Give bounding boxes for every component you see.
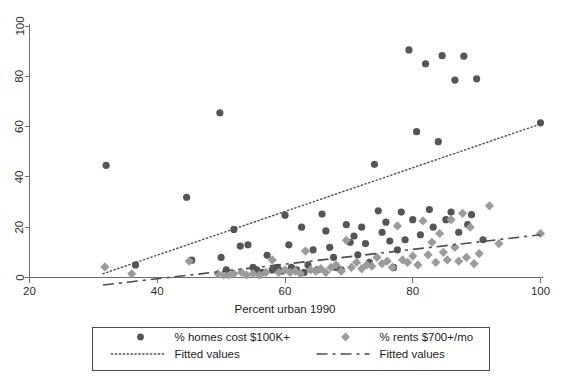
data-point-circle bbox=[394, 246, 401, 253]
legend-item-3-label: Fitted values bbox=[380, 348, 445, 360]
data-point-circle bbox=[281, 212, 288, 219]
plot-svg: 020406080100 20406080100 Percent urban 1… bbox=[0, 0, 565, 389]
data-point-circle bbox=[430, 224, 437, 231]
y-tick-label-40: 40 bbox=[14, 171, 26, 184]
data-point-circle bbox=[354, 251, 361, 258]
y-tick-label-0: 0 bbox=[14, 274, 26, 280]
data-point-circle bbox=[298, 224, 305, 231]
x-tick-label-40: 40 bbox=[151, 285, 164, 297]
data-point-circle bbox=[455, 229, 462, 236]
y-tick-label-100: 100 bbox=[14, 16, 26, 35]
data-point-circle bbox=[183, 194, 190, 201]
data-point-circle bbox=[326, 244, 333, 251]
data-point-circle bbox=[237, 242, 244, 249]
data-point-circle bbox=[398, 209, 405, 216]
data-point-circle bbox=[371, 161, 378, 168]
data-point-circle bbox=[417, 231, 424, 238]
data-point-circle bbox=[362, 240, 369, 247]
data-point-circle bbox=[322, 227, 329, 234]
data-point-circle bbox=[422, 60, 429, 67]
y-tick-label-60: 60 bbox=[14, 120, 26, 133]
data-point-circle bbox=[350, 232, 357, 239]
data-point-circle bbox=[330, 254, 337, 261]
data-point-circle bbox=[358, 224, 365, 231]
data-point-circle bbox=[439, 52, 446, 59]
data-point-circle bbox=[343, 221, 350, 228]
data-point-circle bbox=[447, 209, 454, 216]
data-point-circle bbox=[426, 206, 433, 213]
x-tick-label-100: 100 bbox=[531, 285, 550, 297]
data-point-circle bbox=[244, 241, 251, 248]
data-point-circle bbox=[382, 219, 389, 226]
y-tick-label-20: 20 bbox=[14, 221, 26, 234]
data-point-circle bbox=[386, 237, 393, 244]
x-tick-label-80: 80 bbox=[406, 285, 419, 297]
data-point-circle bbox=[460, 53, 467, 60]
legend-item-0-label: % homes cost $100K+ bbox=[175, 331, 291, 343]
x-tick-label-20: 20 bbox=[23, 285, 36, 297]
data-point-circle bbox=[405, 46, 412, 53]
x-tick-label-60: 60 bbox=[279, 285, 292, 297]
data-point-circle bbox=[318, 211, 325, 218]
data-point-circle bbox=[451, 76, 458, 83]
data-point-circle bbox=[473, 75, 480, 82]
data-point-circle bbox=[401, 236, 408, 243]
data-point-circle bbox=[479, 236, 486, 243]
legend-marker-circle bbox=[137, 334, 144, 341]
y-tick-label-80: 80 bbox=[14, 70, 26, 83]
data-point-circle bbox=[435, 138, 442, 145]
data-point-circle bbox=[285, 241, 292, 248]
data-point-circle bbox=[218, 254, 225, 261]
data-point-circle bbox=[378, 229, 385, 236]
scatter-chart: 020406080100 20406080100 Percent urban 1… bbox=[0, 0, 565, 389]
data-point-circle bbox=[310, 246, 317, 253]
data-point-circle bbox=[216, 109, 223, 116]
data-point-circle bbox=[413, 128, 420, 135]
legend-item-1-label: % rents $700+/mo bbox=[380, 331, 474, 343]
data-point-circle bbox=[468, 211, 475, 218]
data-point-circle bbox=[409, 216, 416, 223]
legend-item-2-label: Fitted values bbox=[175, 348, 240, 360]
chart-legend: % homes cost $100K+% rents $700+/moFitte… bbox=[93, 328, 490, 371]
data-point-circle bbox=[103, 162, 110, 169]
x-axis-title: Percent urban 1990 bbox=[234, 303, 335, 315]
data-point-circle bbox=[375, 207, 382, 214]
